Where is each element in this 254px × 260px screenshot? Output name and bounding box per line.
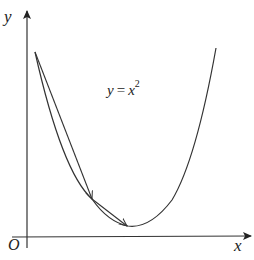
parabola-curve xyxy=(35,48,216,226)
parabola-diagram: y x O y=x2 xyxy=(0,0,254,260)
origin-label: O xyxy=(8,237,20,253)
equation-exponent: 2 xyxy=(135,78,140,89)
chord-2 xyxy=(92,199,127,226)
chord-1 xyxy=(35,52,92,199)
x-axis xyxy=(12,236,251,237)
equation-operator: = xyxy=(114,82,128,98)
equation-label: y=x2 xyxy=(107,81,140,98)
equation-base: x xyxy=(128,82,135,98)
equation-lhs: y xyxy=(107,82,114,98)
x-axis-label: x xyxy=(234,237,242,254)
y-axis-label: y xyxy=(4,8,12,25)
diagram-canvas xyxy=(0,0,254,260)
